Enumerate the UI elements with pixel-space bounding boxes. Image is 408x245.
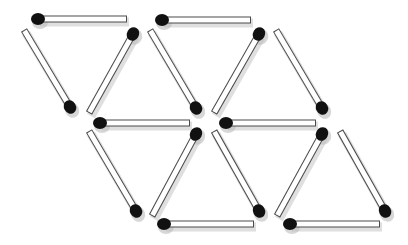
matchstick[interactable] — [150, 30, 208, 121]
match-head — [93, 117, 107, 129]
matchstick[interactable] — [93, 117, 192, 133]
matchstick[interactable] — [219, 117, 318, 133]
matchstick[interactable] — [89, 131, 148, 224]
match-head — [283, 218, 297, 230]
matchstick[interactable] — [214, 25, 271, 116]
matchstick[interactable] — [155, 14, 253, 30]
matchstick[interactable] — [276, 30, 334, 121]
matchstick[interactable] — [24, 30, 82, 120]
matchstick[interactable] — [89, 25, 145, 116]
match-head — [31, 13, 45, 25]
matchstick[interactable] — [152, 125, 208, 219]
matchstick[interactable] — [214, 131, 271, 224]
match-head — [155, 14, 169, 26]
matchstick[interactable] — [31, 13, 129, 29]
matchstick[interactable] — [283, 218, 382, 234]
match-head — [157, 218, 171, 230]
matchstick[interactable] — [277, 125, 334, 219]
matchstick[interactable] — [340, 131, 397, 224]
matchstick[interactable] — [157, 218, 256, 234]
matchstick-canvas — [0, 0, 408, 245]
match-head — [219, 117, 233, 129]
